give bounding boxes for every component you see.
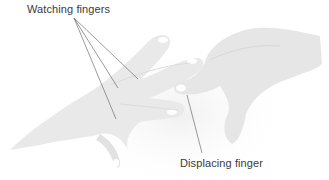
hand-illustration: Watching fingers Displacing finger <box>0 0 329 180</box>
nail <box>158 37 168 43</box>
displacing-finger-label: Displacing finger <box>180 157 263 169</box>
hands-drawing <box>0 0 329 180</box>
watching-fingers-label: Watching fingers <box>27 3 110 15</box>
